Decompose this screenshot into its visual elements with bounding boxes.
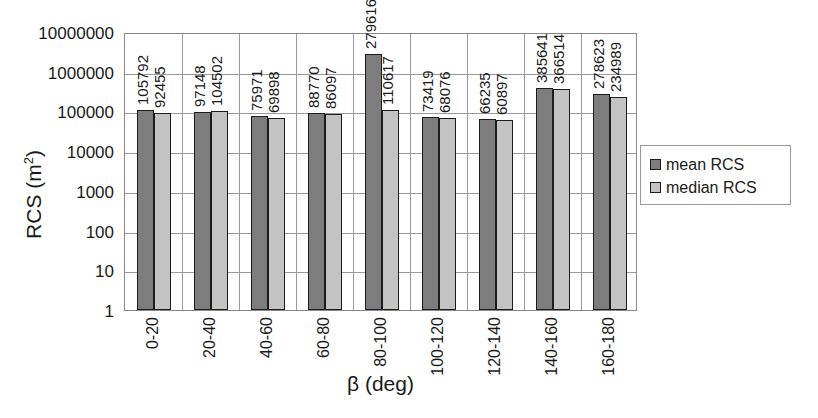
bar-group-bars: 97148104502: [182, 34, 239, 310]
bar-value-label: 110617: [380, 56, 395, 105]
y-tick-label: 100000: [0, 104, 114, 121]
x-tick-label: 140-160: [544, 317, 560, 376]
bar-value-label: 97148: [192, 65, 207, 107]
bar-value-label: 104502: [209, 56, 224, 106]
bar-mean-rcs[interactable]: 97148: [194, 112, 211, 310]
y-tick-label: 10: [0, 263, 114, 280]
bar-value-label: 68076: [437, 71, 452, 113]
y-tick-label: 1000000: [0, 64, 114, 81]
bar-value-label: 234989: [608, 42, 623, 92]
bar-mean-rcs[interactable]: 278623: [593, 94, 610, 310]
legend-label: mean RCS: [666, 156, 744, 174]
x-tick-label: 100-120: [430, 317, 446, 376]
bar-group-bars: 10579292455: [125, 34, 182, 310]
bar-median-rcs[interactable]: 69898: [268, 118, 285, 310]
bar-group: 6623560897: [467, 34, 524, 310]
bar-mean-rcs[interactable]: 66235: [479, 119, 496, 310]
y-tick-label: 10000: [0, 144, 114, 161]
chart-legend: mean RCSmedian RCS: [640, 145, 791, 205]
bar-mean-rcs[interactable]: 105792: [137, 110, 154, 310]
bar-group-bars: 8877086097: [296, 34, 353, 310]
bar-median-rcs[interactable]: 92455: [154, 113, 171, 310]
legend-item[interactable]: median RCS: [650, 176, 790, 199]
y-tick-label: 10000000: [0, 25, 114, 42]
legend-item[interactable]: mean RCS: [650, 153, 790, 176]
bar-mean-rcs[interactable]: 73419: [422, 117, 439, 310]
x-tick-label: 60-80: [316, 317, 332, 358]
bar-median-rcs[interactable]: 234989: [610, 97, 627, 310]
bar-group: 7597169898: [239, 34, 296, 310]
legend-label: median RCS: [666, 179, 757, 197]
bar-group: 2796163110617: [353, 34, 410, 310]
bar-value-label: 60897: [494, 73, 509, 115]
bar-value-label: 69898: [266, 71, 281, 113]
legend-swatch-mean: [650, 159, 661, 170]
x-tick-label: 40-60: [259, 317, 275, 358]
x-tick-label: 120-140: [487, 317, 503, 376]
bar-value-label: 88770: [306, 67, 321, 109]
bar-median-rcs[interactable]: 110617: [382, 110, 399, 310]
bar-median-rcs[interactable]: 60897: [496, 120, 513, 310]
bar-group: 7341968076: [410, 34, 467, 310]
bar-value-label: 92455: [152, 66, 167, 108]
bar-value-label: 66235: [477, 72, 492, 114]
plot-area: 1057929245597148104502759716989888770860…: [124, 33, 637, 311]
y-tick-label: 1: [0, 303, 114, 320]
bar-value-label: 2796163: [363, 0, 378, 49]
bar-value-label: 75971: [249, 69, 264, 111]
bar-value-label: 105792: [135, 55, 150, 105]
bar-mean-rcs[interactable]: 88770: [308, 113, 325, 310]
x-tick-label: 0-20: [145, 317, 161, 349]
chart-figure: RCS (m2) 1000000010000001000001000010001…: [0, 0, 818, 418]
bar-group: 97148104502: [182, 34, 239, 310]
y-axis-tick-labels: 100000001000000100000100001000100101: [0, 33, 120, 311]
bar-value-label: 73419: [420, 70, 435, 112]
bar-group: 10579292455: [125, 34, 182, 310]
bar-group-bars: 7597169898: [239, 34, 296, 310]
bar-median-rcs[interactable]: 68076: [439, 118, 456, 310]
bar-group-bars: 385641366514: [524, 34, 581, 310]
y-tick-label: 1000: [0, 183, 114, 200]
y-tick-label: 100: [0, 223, 114, 240]
bar-mean-rcs[interactable]: 385641: [536, 88, 553, 310]
bar-group: 8877086097: [296, 34, 353, 310]
bar-group-bars: 278623234989: [581, 34, 638, 310]
bar-value-label: 278623: [591, 39, 606, 89]
x-tick-label: 160-180: [601, 317, 617, 376]
bar-median-rcs[interactable]: 86097: [325, 114, 342, 310]
bar-mean-rcs[interactable]: 75971: [251, 116, 268, 310]
bar-group-bars: 2796163110617: [353, 34, 410, 310]
bar-group: 278623234989: [581, 34, 638, 310]
bar-value-label: 86097: [323, 67, 338, 109]
bar-value-label: 366514: [551, 34, 566, 84]
x-axis-title: β (deg): [124, 372, 637, 396]
bar-group-bars: 6623560897: [467, 34, 524, 310]
legend-swatch-median: [650, 182, 661, 193]
bar-group-bars: 7341968076: [410, 34, 467, 310]
bar-value-label: 385641: [534, 33, 549, 83]
bar-median-rcs[interactable]: 104502: [211, 111, 228, 310]
bar-median-rcs[interactable]: 366514: [553, 89, 570, 310]
x-tick-label: 20-40: [202, 317, 218, 358]
bar-group: 385641366514: [524, 34, 581, 310]
x-tick-label: 80-100: [373, 317, 389, 367]
